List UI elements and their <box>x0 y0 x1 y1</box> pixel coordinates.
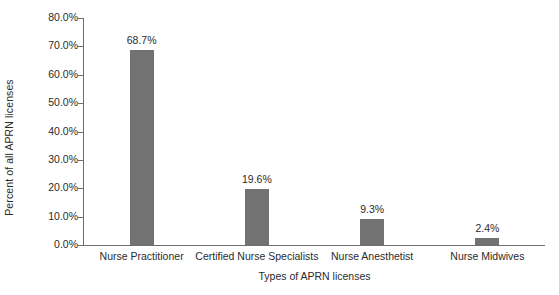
y-axis-tick-label: 60.0% <box>22 69 78 80</box>
plot-area: 68.7%19.6%9.3%2.4% <box>84 18 545 245</box>
y-axis-tick-mark <box>78 18 83 19</box>
bar-group: 2.4% <box>430 18 545 245</box>
bar[interactable] <box>130 50 154 245</box>
bar-value-label: 2.4% <box>475 223 499 234</box>
y-axis-tick-label: 0.0% <box>22 239 78 250</box>
y-axis-tick-mark <box>78 75 83 76</box>
y-axis-tick-mark <box>78 103 83 104</box>
bar-value-label: 9.3% <box>360 204 384 215</box>
bar[interactable] <box>475 238 499 245</box>
y-axis-tick-label: 80.0% <box>22 12 78 23</box>
category-label: Certified Nurse Specialists <box>195 250 318 263</box>
category-label: Nurse Practitioner <box>100 250 184 263</box>
y-axis-tick-labels: 0.0%10.0%20.0%30.0%40.0%50.0%60.0%70.0%8… <box>22 0 78 295</box>
category-label: Nurse Midwives <box>450 250 524 263</box>
y-axis-tick-mark <box>78 46 83 47</box>
bar-group: 9.3% <box>315 18 430 245</box>
y-axis-title: Percent of all APRN licenses <box>0 0 18 295</box>
y-axis-tick-mark <box>78 132 83 133</box>
bar-chart: Percent of all APRN licenses 0.0%10.0%20… <box>0 0 559 295</box>
y-axis-tick-mark <box>78 245 83 246</box>
y-axis-tick-mark <box>78 160 83 161</box>
bar[interactable] <box>360 219 384 245</box>
y-axis-tick-label: 30.0% <box>22 154 78 165</box>
bar-value-label: 19.6% <box>242 174 272 185</box>
y-axis-tick-label: 10.0% <box>22 211 78 222</box>
x-axis-line <box>83 245 545 246</box>
category-label: Nurse Anesthetist <box>331 250 413 263</box>
bar[interactable] <box>245 189 269 245</box>
y-axis-tick-label: 70.0% <box>22 40 78 51</box>
y-axis-tick-label: 20.0% <box>22 182 78 193</box>
y-axis-tick-label: 40.0% <box>22 126 78 137</box>
bar-group: 19.6% <box>199 18 314 245</box>
y-axis-tick-mark <box>78 217 83 218</box>
x-axis-category-labels: Nurse PractitionerCertified Nurse Specia… <box>84 250 545 266</box>
x-axis-title: Types of APRN licenses <box>84 270 545 282</box>
bar-group: 68.7% <box>84 18 199 245</box>
bar-value-label: 68.7% <box>127 35 157 46</box>
y-axis-tick-mark <box>78 188 83 189</box>
y-axis-tick-label: 50.0% <box>22 97 78 108</box>
